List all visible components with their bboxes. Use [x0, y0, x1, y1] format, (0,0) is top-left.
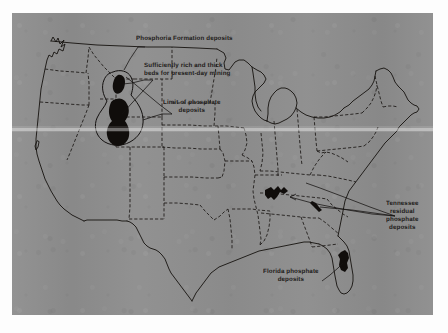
map-artwork [12, 13, 433, 315]
tennessee-central-deposit [265, 186, 288, 200]
sufficiently-rich-beds-label: Sufficiently rich and thickbeds for pres… [144, 62, 230, 78]
limit-of-phosphate-deposits-label: Limit of phosphatedeposits [163, 99, 221, 115]
map-plate: Phosphoria Formation deposits Sufficient… [12, 13, 433, 315]
limit-line-2: deposits [179, 107, 205, 114]
limit-line-1: Limit of phosphate [163, 99, 221, 106]
sufficiently-rich-line-1: Sufficiently rich and thick [144, 62, 223, 69]
tennessee-line-1: Tennessee [386, 200, 419, 207]
tennessee-line-2: residual [390, 208, 415, 215]
sufficiently-rich-line-2: beds for present-day mining [144, 70, 230, 77]
florida-phosphate-deposit [338, 250, 349, 272]
tennessee-residual-phosphate-label: Tennesseeresidualphosphatedeposits [386, 200, 419, 232]
leader-florida [322, 263, 343, 281]
florida-line-1: Florida phosphate [263, 268, 319, 275]
leader-phosphoria [124, 47, 145, 70]
phosphoria-formation-label: Phosphoria Formation deposits [136, 35, 233, 43]
leader-sufficiently-rich-2 [122, 80, 153, 114]
tennessee-line-4: deposits [389, 224, 415, 231]
tennessee-line-3: phosphate [386, 216, 418, 223]
map-figure: Phosphoria Formation deposits Sufficient… [0, 0, 448, 333]
leader-sufficiently-rich [123, 80, 153, 84]
western-phosphoria-lower-deposit [107, 98, 129, 146]
florida-phosphate-deposits-label: Florida phosphatedeposits [263, 268, 319, 284]
annotation-leader-lines [122, 47, 395, 281]
florida-line-2: deposits [278, 276, 304, 283]
